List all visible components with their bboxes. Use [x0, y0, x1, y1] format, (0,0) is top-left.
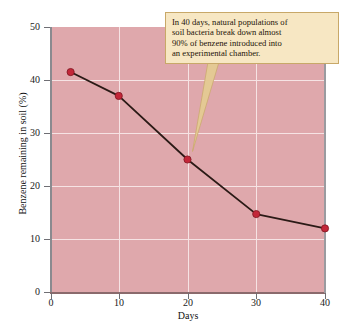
data-point — [184, 156, 191, 163]
data-point — [115, 92, 122, 99]
annotation-line-2: soil bacteria break down almost — [172, 27, 333, 37]
chart-figure: 50 40 30 20 10 0 0 10 20 30 40 Benzene r… — [0, 0, 356, 325]
data-point — [67, 68, 74, 75]
annotation-line-1: In 40 days, natural populations of — [172, 17, 333, 27]
annotation-line-4: an experimental chamber. — [172, 48, 333, 58]
annotation-callout: In 40 days, natural populations of soil … — [165, 12, 339, 64]
data-line — [71, 72, 325, 228]
data-point — [253, 210, 260, 217]
data-markers — [67, 68, 329, 232]
annotation-line-3: 90% of benzene introduced into — [172, 38, 333, 48]
data-point — [321, 225, 328, 232]
